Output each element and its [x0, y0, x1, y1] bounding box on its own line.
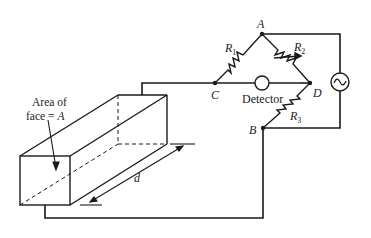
label-length-d: d: [134, 171, 141, 185]
detector-icon: [255, 76, 269, 90]
node-b: [261, 126, 265, 130]
area-arrow: [48, 120, 59, 170]
label-detector: Detector: [242, 92, 283, 106]
label-a: A: [256, 17, 265, 31]
label-r3: R3: [289, 109, 301, 125]
label-b: B: [249, 123, 257, 137]
label-c: C: [211, 88, 220, 102]
node-c: [213, 81, 217, 85]
label-r1: R1: [224, 41, 236, 57]
label-area-line1: Area of: [32, 96, 67, 108]
resistor-r2: [262, 34, 310, 83]
resistor-r1: [215, 34, 262, 83]
node-a: [260, 32, 264, 36]
wires: [45, 34, 340, 218]
bridge-diagram: A C D B R1 R2 R3 Detector Area of face =…: [0, 0, 371, 238]
label-area-line2: face = A: [26, 110, 65, 122]
cell-front-face: [20, 156, 70, 205]
label-d: D: [312, 86, 322, 100]
label-r2: R2: [293, 40, 305, 56]
node-d: [308, 81, 312, 85]
